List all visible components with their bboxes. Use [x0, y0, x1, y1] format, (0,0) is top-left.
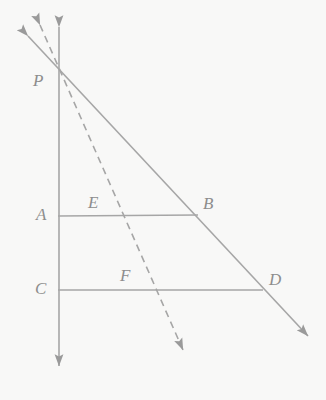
dashed-diagonal-ray-PEF: [40, 25, 183, 350]
diagram-canvas: [0, 0, 326, 400]
point-label-D: D: [269, 271, 281, 288]
point-label-C: C: [35, 280, 46, 297]
point-label-A: A: [36, 206, 46, 223]
segment-AB: [58, 215, 198, 216]
point-label-F: F: [120, 267, 130, 284]
point-label-B: B: [203, 195, 213, 212]
solid-diagonal-ray-PBD: [28, 36, 308, 336]
point-label-E: E: [88, 194, 98, 211]
geometry-diagram: P A E B C F D: [0, 0, 326, 400]
point-label-P: P: [33, 72, 43, 89]
